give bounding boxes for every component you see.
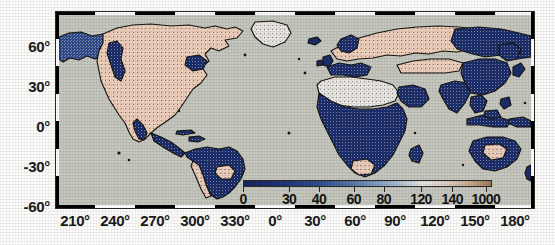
x-tick-label: 90° xyxy=(384,213,405,228)
colorbar xyxy=(243,180,492,187)
x-tick-label: 270° xyxy=(140,213,169,228)
x-tick-label: 210° xyxy=(60,213,89,228)
island-speck xyxy=(117,151,120,154)
map-frame-right xyxy=(531,11,535,209)
colorbar-tick-label: 140 xyxy=(441,192,463,206)
y-tick-label: -30° xyxy=(24,159,50,174)
land-ireland xyxy=(317,60,323,66)
world-map-svg xyxy=(59,15,531,205)
colorbar-gradient xyxy=(244,181,491,186)
map-frame-top xyxy=(55,11,535,15)
x-tick-label: 30° xyxy=(304,213,325,228)
map-canvas xyxy=(59,15,531,205)
x-tick-label: 240° xyxy=(100,213,129,228)
y-tick-label: 60° xyxy=(28,39,50,54)
x-tick-label: 0° xyxy=(268,213,282,228)
colorbar-tick-label: 80 xyxy=(376,192,390,206)
island-speck xyxy=(524,102,527,105)
island-speck xyxy=(462,164,464,166)
y-tick-label: 30° xyxy=(28,79,50,94)
colorbar-tick-label: 0 xyxy=(239,192,246,206)
island-speck xyxy=(128,159,131,162)
colorbar-tick-label: 30 xyxy=(282,192,296,206)
x-axis: 210°240°270°300°330°0°30°60°90°120°150°1… xyxy=(0,213,555,237)
x-tick-label: 300° xyxy=(180,213,209,228)
x-tick-label: 60° xyxy=(344,213,365,228)
island-speck xyxy=(304,72,307,75)
y-tick-label: 0° xyxy=(36,119,50,134)
figure-root: 60° 30° 0° -30° -60° xyxy=(0,0,555,245)
island-speck xyxy=(288,132,291,135)
map-frame-left xyxy=(55,11,59,209)
x-tick-label: 150° xyxy=(460,213,489,228)
island-speck xyxy=(178,110,180,112)
colorbar-tick-label: 60 xyxy=(347,192,361,206)
colorbar-tick-label: 120 xyxy=(410,192,432,206)
island-speck xyxy=(414,132,417,135)
x-tick-label: 120° xyxy=(420,213,449,228)
colorbar-tick-label: 40 xyxy=(312,192,326,206)
x-tick-label: 180° xyxy=(500,213,529,228)
land-europe-south xyxy=(327,63,371,77)
y-axis: 60° 30° 0° -30° -60° xyxy=(0,0,50,245)
colorbar-tick-labels: 0304060801201401000 xyxy=(0,192,555,208)
island-speck xyxy=(244,54,247,57)
x-tick-label: 330° xyxy=(220,213,249,228)
island-speck xyxy=(298,58,300,60)
colorbar-tick-label: 1000 xyxy=(471,192,500,206)
